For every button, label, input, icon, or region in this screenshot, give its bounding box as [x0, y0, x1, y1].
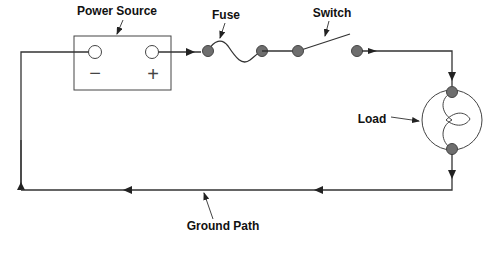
negative-sign: − — [89, 62, 101, 84]
circuit-diagram: − + Power Source Fuse Switch Load — [0, 0, 487, 268]
arrow-up-icon — [17, 182, 25, 190]
power-source-leader — [117, 20, 123, 34]
load-connector-bottom — [447, 144, 458, 155]
power-source: − + — [74, 36, 171, 90]
switch-load-wire — [362, 51, 452, 86]
arrow-down-icon — [448, 72, 456, 81]
switch-pivot — [293, 46, 304, 57]
ground-path-leader — [204, 193, 213, 219]
arrow-left-icon — [314, 186, 323, 194]
negative-terminal — [89, 46, 102, 59]
fuse-label: Fuse — [212, 8, 240, 22]
load-bulb — [422, 87, 482, 155]
positive-sign: + — [147, 63, 159, 85]
ground-path-label: Ground Path — [187, 219, 260, 233]
fuse-leader — [220, 23, 225, 38]
positive-terminal — [146, 46, 159, 59]
fuse — [203, 41, 268, 62]
arrow-left-icon-2 — [123, 186, 132, 194]
switch-label: Switch — [313, 6, 352, 20]
power-source-label: Power Source — [77, 4, 157, 18]
arrow-down-icon-2 — [448, 170, 456, 179]
arrow-right-icon — [186, 48, 195, 56]
load-label: Load — [358, 112, 387, 126]
load-leader — [391, 117, 419, 121]
switch-leader — [325, 21, 329, 36]
switch — [293, 34, 363, 57]
fuse-element — [208, 41, 262, 62]
fuse-connector-left — [203, 46, 214, 57]
load-connector-top — [447, 87, 458, 98]
switch-blade — [298, 34, 350, 51]
switch-contact — [352, 46, 363, 57]
ground-path-wire — [21, 154, 452, 190]
arrow-right-icon-2 — [368, 48, 377, 54]
